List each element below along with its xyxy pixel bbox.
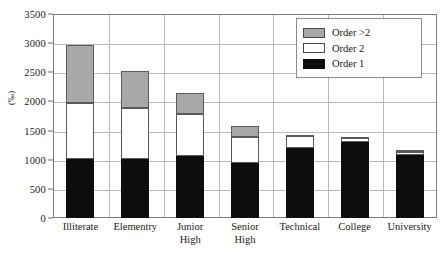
bar-segment[interactable] (396, 150, 424, 152)
legend-item[interactable]: Order >2 (303, 26, 415, 40)
chart-legend: Order >2Order 2Order 1 (296, 18, 422, 78)
white-swatch (303, 43, 325, 53)
bar-segment[interactable] (176, 156, 204, 218)
bar-segment[interactable] (231, 163, 259, 218)
bar-segment[interactable] (231, 137, 259, 163)
legend-item[interactable]: Order 1 (303, 57, 415, 71)
legend-label: Order 1 (332, 58, 364, 69)
bar-segment[interactable] (396, 152, 424, 155)
bar-segment[interactable] (341, 137, 369, 139)
bar-segment[interactable] (121, 71, 149, 108)
legend-label: Order 2 (332, 43, 364, 54)
gray-swatch (303, 28, 325, 38)
bar-segment[interactable] (396, 155, 424, 218)
x-tick-label: Illiterate (53, 221, 108, 234)
x-tick-label: Technical (272, 221, 327, 234)
bar-stack[interactable] (66, 14, 94, 218)
stacked-bar-chart: (‰) 0500100015002000250030003500 Illiter… (0, 0, 445, 271)
bar-stack[interactable] (121, 14, 149, 218)
y-axis-ticks: 0500100015002000250030003500 (0, 0, 53, 232)
x-tick-label: College (327, 221, 382, 234)
x-tick-label: University (382, 221, 437, 234)
black-swatch (303, 59, 325, 69)
x-tick-label: Junior High (163, 221, 218, 246)
y-tick-label: 2000 (24, 96, 46, 107)
y-tick-label: 1000 (24, 154, 46, 165)
y-tick-label: 3000 (24, 38, 46, 49)
legend-item[interactable]: Order 2 (303, 41, 415, 55)
bar-segment[interactable] (176, 93, 204, 114)
x-tick-label: Senior High (218, 221, 273, 246)
bar-stack[interactable] (176, 14, 204, 218)
bar-segment[interactable] (231, 126, 259, 137)
bar-segment[interactable] (286, 135, 314, 137)
x-tick-label: Elementry (108, 221, 163, 234)
legend-label: Order >2 (332, 27, 370, 38)
bar-segment[interactable] (286, 136, 314, 148)
y-tick-label: 500 (30, 183, 46, 194)
bar-segment[interactable] (66, 159, 94, 218)
bar-segment[interactable] (341, 142, 369, 218)
bar-segment[interactable] (66, 103, 94, 159)
y-tick-label: 2500 (24, 67, 46, 78)
x-axis-labels: IlliterateElementryJunior HighSenior Hig… (53, 221, 437, 267)
y-tick-label: 0 (41, 213, 46, 224)
bar-segment[interactable] (121, 159, 149, 218)
bar-segment[interactable] (286, 148, 314, 218)
bar-segment[interactable] (121, 108, 149, 159)
bar-segment[interactable] (66, 45, 94, 103)
y-tick-label: 1500 (24, 125, 46, 136)
y-tick-label: 3500 (24, 9, 46, 20)
bar-segment[interactable] (176, 114, 204, 156)
bar-stack[interactable] (231, 14, 259, 218)
